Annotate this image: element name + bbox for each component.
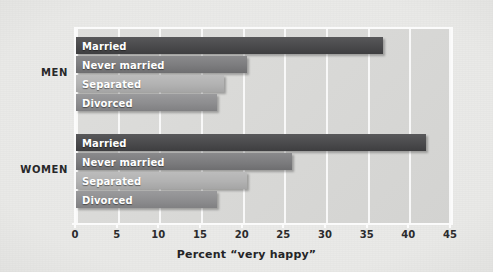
x-tick-label-0: 0	[72, 229, 79, 240]
bar-men-married[interactable]: Married	[76, 37, 383, 54]
bar-row-women-separated: Separated	[76, 172, 247, 189]
x-tick-25	[282, 223, 284, 228]
bar-label-men-divorced: Divorced	[82, 97, 133, 108]
bar-men-separated[interactable]: Separated	[76, 75, 224, 92]
bar-row-women-never-married: Never married	[76, 153, 292, 170]
bar-row-men-never-married: Never married	[76, 56, 247, 73]
x-tick-15	[199, 223, 201, 228]
bar-label-women-never-married: Never married	[82, 156, 165, 167]
x-tick-5	[116, 223, 118, 228]
group-label-men: MEN	[41, 67, 68, 78]
bar-men-never-married[interactable]: Never married	[76, 56, 247, 73]
bar-label-men-separated: Separated	[82, 78, 141, 89]
x-tick-10	[157, 223, 159, 228]
x-tick-label-25: 25	[276, 229, 290, 240]
bar-row-men-separated: Separated	[76, 75, 224, 92]
x-tick-label-35: 35	[360, 229, 374, 240]
x-tick-label-45: 45	[443, 229, 457, 240]
chart-figure: Married Never married Separated Divorced…	[0, 0, 493, 272]
gridline-30	[326, 29, 328, 225]
bar-label-men-never-married: Never married	[82, 59, 165, 70]
bar-row-women-married: Married	[76, 134, 426, 151]
x-tick-0	[74, 223, 76, 228]
x-tick-label-40: 40	[401, 229, 415, 240]
bar-label-men-married: Married	[82, 40, 127, 51]
group-label-column: MEN WOMEN	[0, 27, 68, 223]
bar-women-never-married[interactable]: Never married	[76, 153, 292, 170]
bar-row-men-married: Married	[76, 37, 383, 54]
x-tick-35	[366, 223, 368, 228]
bar-label-women-divorced: Divorced	[82, 194, 133, 205]
x-tick-label-5: 5	[113, 229, 120, 240]
gridline-45	[449, 29, 451, 225]
bar-women-married[interactable]: Married	[76, 134, 426, 151]
x-tick-20	[241, 223, 243, 228]
x-tick-label-10: 10	[151, 229, 165, 240]
gridline-25	[284, 29, 286, 225]
x-tick-40	[407, 223, 409, 228]
bar-row-women-divorced: Divorced	[76, 191, 217, 208]
group-label-women: WOMEN	[20, 164, 68, 175]
bar-women-separated[interactable]: Separated	[76, 172, 247, 189]
x-tick-label-20: 20	[235, 229, 249, 240]
bar-men-divorced[interactable]: Divorced	[76, 94, 217, 111]
bar-women-divorced[interactable]: Divorced	[76, 191, 217, 208]
bar-label-women-married: Married	[82, 137, 127, 148]
x-tick-label-30: 30	[318, 229, 332, 240]
bar-row-men-divorced: Divorced	[76, 94, 217, 111]
x-axis-title: Percent “very happy”	[0, 248, 493, 261]
plot-area: Married Never married Separated Divorced…	[74, 27, 451, 225]
x-tick-label-15: 15	[193, 229, 207, 240]
x-tick-30	[324, 223, 326, 228]
gridline-40	[409, 29, 411, 225]
gridline-35	[368, 29, 370, 225]
x-axis-line	[72, 223, 451, 225]
x-tick-45	[449, 223, 451, 228]
bar-label-women-separated: Separated	[82, 175, 141, 186]
